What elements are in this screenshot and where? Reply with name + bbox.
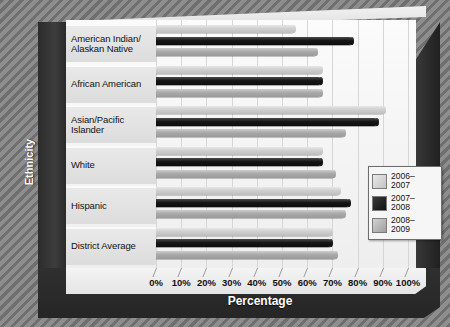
axis-tick-label: 50% bbox=[269, 277, 295, 288]
chart-3d-container: American Indian/Alaskan NativeAfrican Am… bbox=[10, 6, 440, 318]
category-label-text: White bbox=[71, 160, 95, 171]
y-axis-title: Ethnicity bbox=[23, 117, 35, 207]
axis-tick bbox=[304, 268, 309, 277]
axis-tick-label: 70% bbox=[319, 277, 345, 288]
category-label-4: White bbox=[66, 146, 156, 184]
axis-tick bbox=[404, 268, 409, 277]
axis-tick-label: 90% bbox=[370, 277, 396, 288]
bar-g4-s1 bbox=[156, 147, 322, 155]
axis-tick-label: 100% bbox=[395, 277, 421, 288]
axis-tick-label: 30% bbox=[219, 277, 245, 288]
bar-g4-s2 bbox=[156, 158, 322, 166]
bar-g3-s1 bbox=[156, 106, 385, 114]
chart-left-pillar bbox=[38, 22, 66, 308]
category-label-text: African American bbox=[71, 79, 141, 90]
bar-g5-s1 bbox=[156, 187, 340, 195]
legend-swatch-3 bbox=[372, 218, 387, 233]
chart-legend[interactable]: 2006–20072007–20082008–2009 bbox=[368, 166, 442, 240]
axis-tick-label: 20% bbox=[193, 277, 219, 288]
axis-tick-label: 40% bbox=[244, 277, 270, 288]
bar-g1-s1 bbox=[156, 25, 295, 33]
bar-g5-s3 bbox=[156, 210, 345, 218]
category-label-2: African American bbox=[66, 65, 156, 103]
axis-tick-label: 60% bbox=[294, 277, 320, 288]
axis-tick bbox=[152, 268, 157, 277]
category-label-text: District Average bbox=[71, 241, 136, 252]
category-label-3: Asian/PacificIslander bbox=[66, 105, 156, 143]
axis-tick-label: 0% bbox=[143, 277, 169, 288]
legend-item-2[interactable]: 2007–2008 bbox=[372, 192, 438, 214]
bar-g1-s2 bbox=[156, 37, 353, 45]
bar-g4-s3 bbox=[156, 170, 335, 178]
axis-tick bbox=[203, 268, 208, 277]
category-label-text: American Indian/Alaskan Native bbox=[71, 34, 141, 55]
bar-g3-s3 bbox=[156, 129, 345, 137]
category-label-6: District Average bbox=[66, 227, 156, 265]
axis-tick bbox=[354, 268, 359, 277]
axis-tick-label: 80% bbox=[345, 277, 371, 288]
bar-g1-s3 bbox=[156, 48, 317, 56]
bar-g3-s2 bbox=[156, 118, 378, 126]
axis-tick bbox=[178, 268, 183, 277]
bar-g2-s3 bbox=[156, 89, 322, 97]
category-axis-labels: American Indian/Alaskan NativeAfrican Am… bbox=[66, 20, 156, 268]
axis-tick bbox=[278, 268, 283, 277]
value-axis: 0%10%20%30%40%50%60%70%80%90%100% bbox=[66, 268, 426, 294]
bar-g2-s2 bbox=[156, 77, 322, 85]
axis-tick bbox=[379, 268, 384, 277]
legend-label-1: 2006–2007 bbox=[391, 172, 415, 190]
category-label-5: Hispanic bbox=[66, 186, 156, 224]
bar-g2-s1 bbox=[156, 66, 322, 74]
legend-swatch-2 bbox=[372, 196, 387, 211]
legend-label-3: 2008–2009 bbox=[391, 216, 415, 234]
axis-tick bbox=[329, 268, 334, 277]
bar-g6-s1 bbox=[156, 228, 332, 236]
bar-g6-s2 bbox=[156, 239, 332, 247]
axis-tick bbox=[253, 268, 258, 277]
category-label-text: Hispanic bbox=[71, 201, 107, 212]
legend-swatch-1 bbox=[372, 174, 387, 189]
category-label-1: American Indian/Alaskan Native bbox=[66, 24, 156, 62]
legend-item-3[interactable]: 2008–2009 bbox=[372, 214, 438, 236]
axis-tick-label: 10% bbox=[168, 277, 194, 288]
legend-label-2: 2007–2008 bbox=[391, 194, 415, 212]
bar-g5-s2 bbox=[156, 199, 350, 207]
bar-g6-s3 bbox=[156, 251, 337, 259]
x-axis-title: Percentage bbox=[160, 294, 360, 308]
legend-item-1[interactable]: 2006–2007 bbox=[372, 170, 438, 192]
category-label-text: Asian/PacificIslander bbox=[71, 115, 124, 136]
axis-tick bbox=[228, 268, 233, 277]
